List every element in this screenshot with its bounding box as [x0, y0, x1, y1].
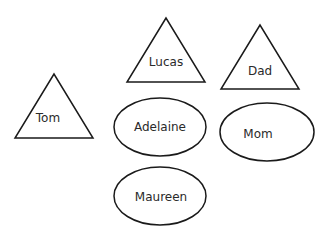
node-label-adelaine: Adelaine — [134, 120, 186, 134]
node-label-maureen: Maureen — [135, 190, 187, 204]
family-diagram: Lucas Dad Tom Adelaine Mom Maureen — [0, 0, 324, 239]
node-tom: Tom — [15, 74, 93, 138]
node-label-lucas: Lucas — [149, 55, 183, 69]
triangle-shape — [127, 18, 205, 82]
node-label-mom: Mom — [243, 127, 272, 141]
node-maureen: Maureen — [114, 167, 206, 225]
node-label-dad: Dad — [248, 64, 272, 78]
node-adelaine: Adelaine — [114, 98, 206, 156]
triangle-shape — [15, 74, 93, 138]
node-mom: Mom — [220, 103, 314, 161]
node-lucas: Lucas — [127, 18, 205, 82]
triangle-shape — [221, 25, 299, 89]
node-label-tom: Tom — [35, 111, 60, 125]
node-dad: Dad — [221, 25, 299, 89]
